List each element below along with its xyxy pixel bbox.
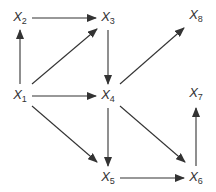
node-x7: X7 xyxy=(189,86,203,102)
node-x6: X6 xyxy=(189,170,203,186)
edge-x1-to-x5 xyxy=(32,106,97,162)
node-x4: X4 xyxy=(101,88,115,104)
edge-x1-to-x3 xyxy=(32,29,97,84)
node-x1: X1 xyxy=(13,88,27,104)
edge-x4-to-x8 xyxy=(120,28,184,84)
causal-graph-diagram: X1 X2 X3 X4 X5 X6 X7 X8 xyxy=(0,0,216,192)
node-x3: X3 xyxy=(101,10,115,26)
node-x8: X8 xyxy=(189,8,203,24)
node-x2: X2 xyxy=(13,10,27,26)
edge-x4-to-x6 xyxy=(120,106,185,162)
node-x5: X5 xyxy=(101,170,115,186)
